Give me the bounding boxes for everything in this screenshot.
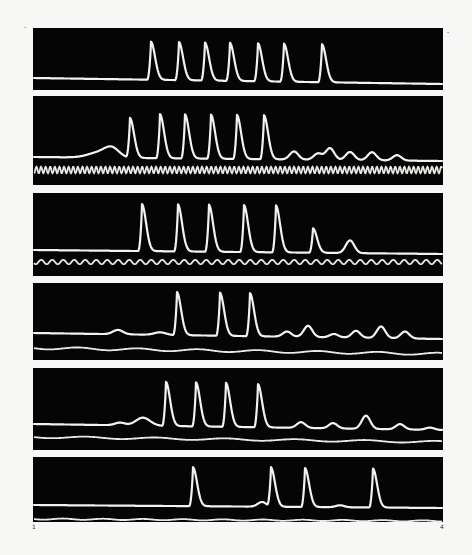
corner-mark: - — [24, 23, 26, 30]
corner-mark: 4 — [440, 523, 444, 530]
record-panel-4 — [33, 283, 443, 360]
record-panel-1 — [33, 28, 443, 90]
corner-mark: 1 — [32, 523, 36, 530]
oscillogram-figure: --14 — [0, 0, 472, 555]
panel-background — [33, 457, 443, 522]
corner-mark: - — [447, 28, 449, 35]
record-panel-5 — [33, 368, 443, 450]
panel-background — [33, 28, 443, 90]
record-panel-6 — [33, 457, 443, 522]
panel-background — [33, 193, 443, 276]
record-panel-3 — [33, 193, 443, 276]
panels-group — [33, 28, 443, 522]
record-panel-2 — [33, 96, 443, 185]
